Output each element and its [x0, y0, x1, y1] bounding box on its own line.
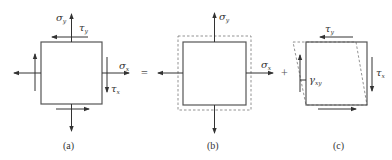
label-tau-y-a: τy: [79, 22, 89, 35]
label-sigma-x-a: σx: [119, 60, 130, 72]
element-square-b: [183, 42, 246, 105]
caption-a: (a): [63, 140, 74, 152]
panel-b: σy σx (b): [158, 11, 273, 152]
deformed-outline-b: [178, 36, 251, 110]
label-tau-y-c: τy: [325, 23, 335, 36]
label-sigma-y-b: σy: [219, 11, 230, 24]
label-sigma-x-b: σx: [261, 59, 272, 71]
caption-c: (c): [333, 140, 344, 152]
label-tau-x-a: τx: [111, 83, 121, 95]
stress-decomposition-diagram: σy τy σx τx (a) = σy σx (b) + τy: [0, 0, 392, 160]
caption-b: (b): [207, 140, 219, 152]
label-gamma-xy-c: γxy: [309, 74, 322, 87]
equals-sign: =: [141, 66, 148, 80]
panel-a: σy τy σx τx (a): [14, 12, 130, 152]
deformed-outline-c: [293, 42, 367, 105]
label-sigma-y-a: σy: [56, 12, 67, 25]
element-square-a: [41, 42, 102, 104]
plus-sign: +: [281, 66, 288, 80]
label-tau-x-c: τx: [376, 67, 386, 79]
panel-c: τy τx γxy (c): [293, 23, 386, 152]
